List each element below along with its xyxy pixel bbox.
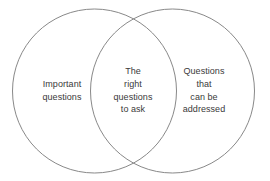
intersection-region-label: The right questions to ask	[103, 65, 163, 116]
venn-diagram: Important questions The right questions …	[0, 0, 270, 181]
left-region-label: Important questions	[20, 78, 104, 104]
right-region-label: Questions that can be addressed	[162, 65, 246, 116]
